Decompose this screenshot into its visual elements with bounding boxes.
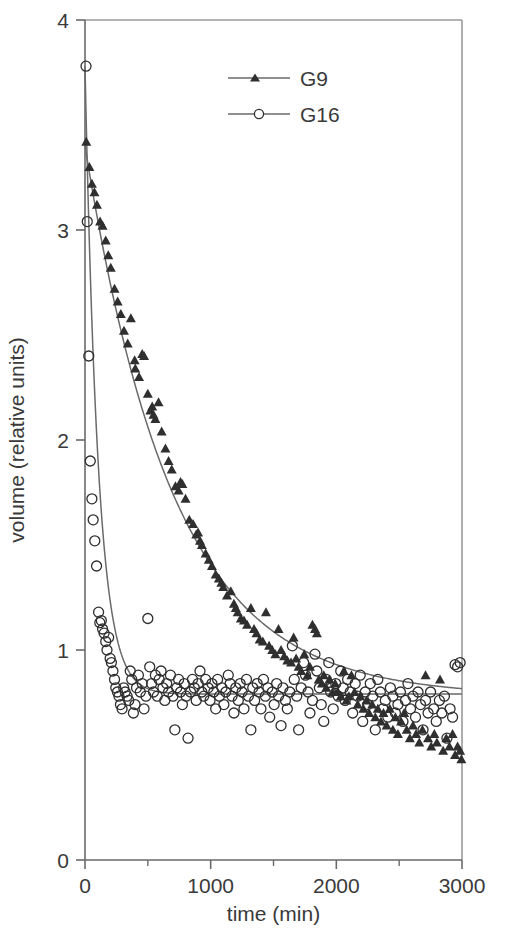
- legend: G9 G16: [228, 67, 340, 126]
- data-point-marker: [89, 187, 99, 196]
- data-point-marker: [134, 372, 144, 381]
- data-point-marker: [126, 313, 136, 322]
- figure-container: volume (relative units) time (min) 01234…: [0, 0, 505, 946]
- data-point-marker: [319, 716, 329, 726]
- data-point-marker: [358, 716, 368, 726]
- data-point-marker: [348, 708, 358, 718]
- data-point-marker: [85, 456, 95, 466]
- data-point-marker: [87, 494, 97, 504]
- data-point-marker: [256, 704, 266, 714]
- data-point-marker: [328, 704, 338, 714]
- data-point-marker: [154, 397, 164, 406]
- fit-curve-g9: [85, 146, 462, 689]
- x-axis-label: time (min): [85, 902, 462, 926]
- data-point-marker: [365, 679, 375, 689]
- data-point-marker: [139, 704, 149, 714]
- x-tick-label-3000: 3000: [439, 874, 486, 895]
- legend-label-g9: G9: [300, 67, 328, 90]
- data-point-marker: [157, 427, 167, 436]
- data-point-marker: [81, 61, 91, 71]
- data-points-g9: [81, 137, 466, 763]
- data-point-marker: [88, 515, 98, 525]
- data-point-marker: [90, 536, 100, 546]
- x-tick-label-1000: 1000: [187, 874, 234, 895]
- data-point-marker: [84, 162, 94, 171]
- data-point-marker: [92, 561, 102, 571]
- plot-frame: [85, 20, 462, 860]
- x-axis-tick-labels: 0100020003000: [79, 874, 485, 895]
- data-point-marker: [426, 687, 436, 697]
- data-point-marker: [229, 708, 239, 718]
- data-point-marker: [316, 700, 326, 710]
- data-point-marker: [370, 725, 380, 735]
- legend-label-g16: G16: [300, 103, 340, 126]
- plot-svg: 01234 0100020003000 G9 G16: [0, 0, 505, 895]
- data-point-marker: [312, 666, 322, 676]
- data-point-marker: [167, 464, 177, 473]
- data-point-marker: [82, 217, 92, 227]
- data-point-marker: [403, 679, 413, 689]
- data-point-marker: [143, 614, 153, 624]
- legend-item-g16: G16: [228, 103, 340, 126]
- y-axis-ticks: [76, 20, 85, 860]
- data-point-marker: [353, 700, 363, 709]
- data-point-marker: [246, 725, 256, 735]
- data-point-marker: [183, 733, 193, 743]
- x-tick-label-0: 0: [79, 874, 91, 895]
- data-point-marker: [130, 364, 140, 373]
- data-point-marker: [435, 674, 445, 683]
- x-axis-ticks: [85, 860, 462, 869]
- y-axis-tick-labels: 01234: [57, 9, 69, 872]
- data-point-marker: [276, 721, 286, 731]
- data-point-marker: [246, 603, 256, 612]
- data-point-marker: [294, 725, 304, 735]
- data-point-marker: [81, 137, 91, 146]
- data-point-marker: [265, 712, 275, 722]
- data-point-marker: [299, 649, 309, 658]
- data-point-marker: [181, 494, 191, 503]
- x-tick-label-2000: 2000: [313, 874, 360, 895]
- y-tick-label-2: 2: [57, 429, 69, 452]
- data-point-marker: [305, 708, 315, 718]
- y-tick-label-3: 3: [57, 219, 69, 242]
- data-point-marker: [92, 200, 102, 209]
- data-point-marker: [143, 389, 153, 398]
- data-point-marker: [289, 632, 299, 641]
- data-point-marker: [368, 691, 378, 701]
- data-point-marker: [429, 729, 439, 738]
- data-point-marker: [411, 712, 421, 722]
- legend-item-g9: G9: [228, 67, 328, 90]
- y-tick-label-1: 1: [57, 639, 69, 662]
- y-tick-label-0: 0: [57, 849, 69, 872]
- data-point-marker: [274, 624, 284, 633]
- data-points-g16: [81, 61, 465, 743]
- data-point-marker: [339, 666, 349, 675]
- y-tick-label-4: 4: [57, 9, 69, 32]
- data-point-marker: [289, 674, 299, 684]
- data-point-marker: [193, 527, 203, 536]
- data-point-marker: [170, 725, 180, 735]
- data-point-marker: [160, 443, 170, 452]
- data-point-marker: [261, 607, 271, 616]
- data-point-marker: [421, 670, 431, 679]
- legend-marker-circle-icon: [254, 109, 263, 118]
- data-point-marker: [414, 737, 424, 746]
- data-point-marker: [239, 704, 249, 714]
- data-point-marker: [432, 737, 442, 746]
- data-point-marker: [164, 456, 174, 465]
- data-point-marker: [219, 700, 229, 710]
